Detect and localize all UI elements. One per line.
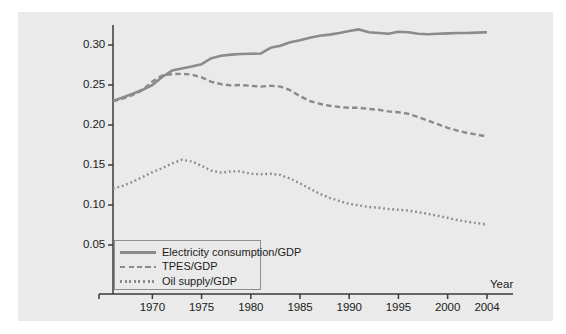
y-tick-0.25: 0.25 <box>63 78 105 90</box>
y-tick-0.15: 0.15 <box>63 158 105 170</box>
series-line-1 <box>113 74 487 137</box>
x-tick-1995: 1995 <box>382 301 414 313</box>
legend-label-oil: Oil supply/GDP <box>162 276 237 287</box>
legend-item-electricity: Electricity consumption/GDP <box>120 245 255 260</box>
y-tick-0.20: 0.20 <box>63 118 105 130</box>
chart-series-lines <box>113 29 487 224</box>
x-tick-1975: 1975 <box>186 301 218 313</box>
x-tick-1990: 1990 <box>333 301 365 313</box>
chart-legend: Electricity consumption/GDP TPES/GDP Oil… <box>114 240 261 290</box>
x-tick-1980: 1980 <box>235 301 267 313</box>
legend-label-tpes: TPES/GDP <box>162 261 218 272</box>
chart-figure: 0.050.100.150.200.250.30 197019751980198… <box>0 0 566 334</box>
x-axis-title: Year <box>490 278 513 290</box>
x-tick-2004: 2004 <box>471 301 503 313</box>
legend-item-tpes: TPES/GDP <box>120 260 255 275</box>
legend-key-dotted-line-icon <box>120 276 156 286</box>
legend-key-solid-line-icon <box>120 247 156 257</box>
y-tick-0.30: 0.30 <box>63 38 105 50</box>
x-tick-1985: 1985 <box>284 301 316 313</box>
series-line-2 <box>113 160 487 225</box>
series-line-0 <box>113 29 487 101</box>
legend-item-oil: Oil supply/GDP <box>120 274 255 289</box>
legend-key-dashed-line-icon <box>120 262 156 272</box>
legend-label-electricity: Electricity consumption/GDP <box>162 247 301 258</box>
y-tick-0.10: 0.10 <box>63 198 105 210</box>
x-tick-2000: 2000 <box>432 301 464 313</box>
x-tick-1970: 1970 <box>136 301 168 313</box>
y-tick-0.05: 0.05 <box>63 238 105 250</box>
